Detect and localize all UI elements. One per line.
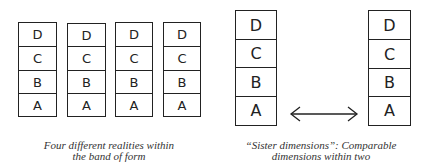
cell-c: C <box>369 39 410 68</box>
cell-b: B <box>164 70 200 93</box>
reality-column-1: D C B A <box>18 22 57 117</box>
sister-column-1: D C B A <box>235 10 277 126</box>
cell-c: C <box>19 46 56 70</box>
cell-d: D <box>164 23 200 46</box>
cell-d: D <box>116 23 152 46</box>
cell-d: D <box>236 11 276 39</box>
cell-c: C <box>116 46 152 70</box>
reality-column-4: D C B A <box>163 22 201 117</box>
cell-b: B <box>19 70 56 93</box>
cell-b: B <box>116 70 152 93</box>
double-headed-arrow-icon <box>288 105 360 123</box>
cell-b: B <box>236 67 276 96</box>
reality-column-2: D C B A <box>67 23 106 117</box>
cell-b: B <box>369 68 410 96</box>
cell-a: A <box>19 93 56 116</box>
cell-a: A <box>164 93 200 116</box>
cell-b: B <box>68 70 105 93</box>
right-caption-line-2: dimensions within two <box>226 151 416 162</box>
cell-c: C <box>164 46 200 70</box>
left-caption: Four different realities within the band… <box>20 140 198 162</box>
cell-a: A <box>236 96 276 124</box>
sister-column-2: D C B A <box>368 10 411 126</box>
cell-d: D <box>19 23 56 46</box>
left-caption-line-2: the band of form <box>20 151 198 162</box>
right-caption: “Sister dimensions”: Comparable dimensio… <box>226 140 416 162</box>
reality-column-3: D C B A <box>115 22 153 117</box>
cell-c: C <box>68 46 105 70</box>
cell-d: D <box>369 11 410 39</box>
cell-a: A <box>68 93 105 116</box>
cell-a: A <box>116 93 152 116</box>
cell-d: D <box>68 24 105 46</box>
cell-c: C <box>236 39 276 67</box>
cell-a: A <box>369 96 410 124</box>
